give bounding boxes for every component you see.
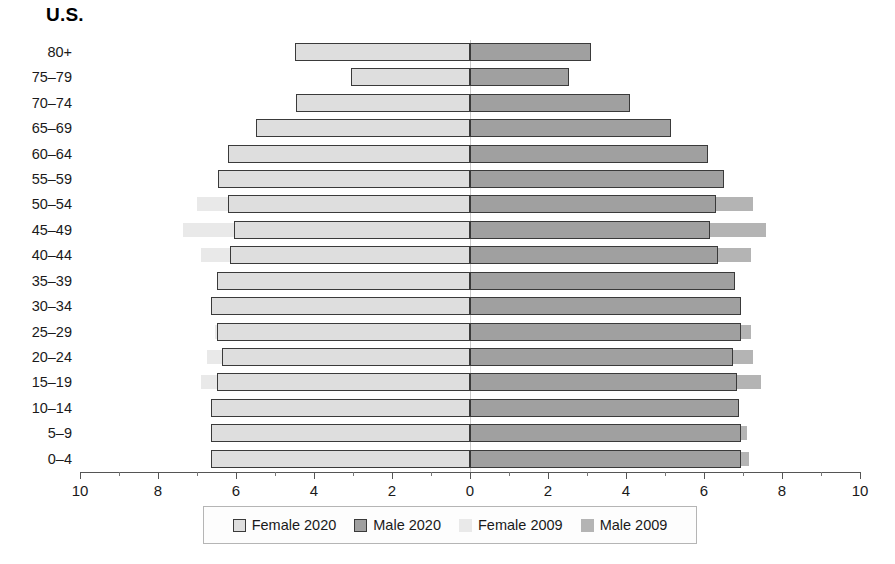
x-axis-minor-tick (119, 472, 120, 476)
y-axis-label: 55–59 (2, 167, 72, 191)
x-axis-tick (80, 472, 81, 479)
x-axis-tick (626, 472, 627, 479)
bar-male-2020 (470, 399, 739, 417)
legend-swatch-icon (581, 519, 594, 532)
x-axis-tick-label: 0 (450, 482, 490, 499)
legend-swatch-icon (354, 519, 367, 532)
x-axis-minor-tick (821, 472, 822, 476)
chart-row (80, 192, 860, 216)
bar-male-2020 (470, 68, 569, 86)
chart-legend: Female 2020Male 2020Female 2009Male 2009 (203, 506, 697, 544)
x-axis-tick-label: 10 (840, 482, 880, 499)
bar-female-2020 (217, 323, 471, 341)
legend-label: Female 2009 (478, 517, 563, 533)
x-axis-minor-tick (353, 472, 354, 476)
chart-row (80, 40, 860, 64)
legend-label: Female 2020 (252, 517, 337, 533)
chart-row (80, 396, 860, 420)
y-axis-label: 75–79 (2, 65, 72, 89)
y-axis-category-labels: 80+75–7970–7465–6960–6455–5950–5445–4940… (0, 40, 72, 472)
bar-female-2020 (217, 373, 471, 391)
chart-row (80, 269, 860, 293)
x-axis-minor-tick (431, 472, 432, 476)
y-axis-label: 40–44 (2, 243, 72, 267)
legend-item[interactable]: Male 2020 (354, 517, 441, 533)
chart-row (80, 243, 860, 267)
y-axis-label: 80+ (2, 40, 72, 64)
x-axis-tick (470, 472, 471, 479)
legend-item[interactable]: Female 2020 (233, 517, 337, 533)
x-axis-minor-tick (743, 472, 744, 476)
bar-female-2020 (228, 195, 470, 213)
bar-male-2020 (470, 221, 710, 239)
bar-male-2020 (470, 450, 741, 468)
bar-female-2020 (217, 272, 471, 290)
bar-male-2020 (470, 272, 735, 290)
plot-area (80, 40, 860, 472)
x-axis-tick-label: 8 (762, 482, 802, 499)
bar-female-2020 (228, 145, 470, 163)
y-axis-label: 70–74 (2, 91, 72, 115)
y-axis-label: 0–4 (2, 447, 72, 471)
bar-female-2020 (211, 424, 470, 442)
chart-row (80, 320, 860, 344)
y-axis-label: 65–69 (2, 116, 72, 140)
y-axis-label: 60–64 (2, 142, 72, 166)
chart-row (80, 142, 860, 166)
bar-female-2020 (351, 68, 470, 86)
bar-male-2020 (470, 145, 708, 163)
x-axis-tick (860, 472, 861, 479)
y-axis-label: 15–19 (2, 370, 72, 394)
x-axis-tick (158, 472, 159, 479)
population-pyramid-chart: U.S. 80+75–7970–7465–6960–6455–5950–5445… (0, 0, 895, 564)
bar-female-2020 (256, 119, 471, 137)
x-axis-tick (782, 472, 783, 479)
chart-row (80, 447, 860, 471)
x-axis-minor-tick (509, 472, 510, 476)
bar-male-2020 (470, 348, 733, 366)
y-axis-label: 10–14 (2, 396, 72, 420)
x-axis-minor-tick (275, 472, 276, 476)
legend-label: Male 2020 (373, 517, 441, 533)
bar-female-2020 (295, 43, 471, 61)
y-axis-label: 45–49 (2, 218, 72, 242)
x-axis-tick-label: 6 (684, 482, 724, 499)
bar-female-2020 (211, 399, 470, 417)
x-axis-tick-label: 10 (60, 482, 100, 499)
x-axis-tick (314, 472, 315, 479)
bar-female-2020 (211, 450, 470, 468)
bar-female-2020 (296, 94, 470, 112)
x-axis-tick-label: 4 (294, 482, 334, 499)
legend-item[interactable]: Male 2009 (581, 517, 668, 533)
bar-male-2020 (470, 119, 671, 137)
bar-female-2020 (218, 170, 470, 188)
chart-row (80, 370, 860, 394)
chart-row (80, 65, 860, 89)
legend-item[interactable]: Female 2009 (459, 517, 563, 533)
y-axis-label: 5–9 (2, 421, 72, 445)
x-axis-minor-tick (197, 472, 198, 476)
chart-row (80, 167, 860, 191)
bar-female-2020 (222, 348, 470, 366)
y-axis-label: 30–34 (2, 294, 72, 318)
x-axis-tick-label: 2 (372, 482, 412, 499)
bar-male-2020 (470, 246, 718, 264)
y-axis-label: 35–39 (2, 269, 72, 293)
y-axis-label: 20–24 (2, 345, 72, 369)
x-axis-tick-label: 6 (216, 482, 256, 499)
chart-row (80, 345, 860, 369)
legend-label: Male 2009 (600, 517, 668, 533)
bar-male-2020 (470, 195, 716, 213)
bar-female-2020 (230, 246, 470, 264)
bar-male-2020 (470, 424, 741, 442)
x-axis-tick-label: 2 (528, 482, 568, 499)
chart-row (80, 218, 860, 242)
bar-male-2020 (470, 323, 741, 341)
y-axis-label: 25–29 (2, 320, 72, 344)
bar-male-2020 (470, 43, 591, 61)
chart-title: U.S. (46, 4, 84, 26)
chart-row (80, 116, 860, 140)
bar-female-2020 (234, 221, 470, 239)
x-axis-tick-label: 8 (138, 482, 178, 499)
legend-swatch-icon (459, 519, 472, 532)
